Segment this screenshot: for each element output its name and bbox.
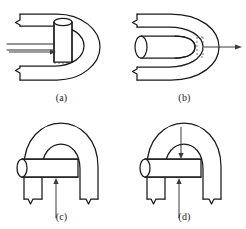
panel-c: (c) <box>0 115 123 229</box>
figure-root: (a) (b) <box>0 0 246 229</box>
cylinder-top-ellipse <box>54 18 72 25</box>
parabolic-channel-inner <box>20 26 84 66</box>
direction-arrow-right-head <box>235 44 242 49</box>
break-mark-lower <box>133 67 138 80</box>
break-mark-left-leg <box>24 199 42 204</box>
panel-a-label: (a) <box>0 93 123 103</box>
direction-arrow-down-head <box>178 153 183 159</box>
break-mark-right-leg <box>80 199 98 204</box>
break-mark-upper <box>16 14 21 26</box>
vertical-cylinder <box>54 22 72 62</box>
break-mark-lower <box>16 66 21 80</box>
panel-b: (b) <box>123 0 246 114</box>
horizontal-cylinder <box>141 36 195 58</box>
panel-d: (d) <box>123 115 246 229</box>
dashed-gap-marker <box>197 37 203 57</box>
panel-c-label: (c) <box>0 212 123 222</box>
break-mark-left-leg <box>147 199 165 204</box>
cylinder-left-ellipse <box>140 159 150 177</box>
panel-b-label: (b) <box>123 93 246 103</box>
horizontal-cylinder <box>145 159 201 177</box>
horizontal-cylinder <box>22 159 78 177</box>
cylinder-left-ellipse <box>17 159 27 177</box>
break-mark-right-leg <box>203 199 221 204</box>
direction-arrow-up-head <box>176 178 181 184</box>
direction-arrow-up-head <box>53 178 58 184</box>
panel-a: (a) <box>0 0 123 114</box>
break-mark-upper <box>133 14 138 27</box>
panel-d-label: (d) <box>123 212 246 222</box>
cylinder-left-ellipse <box>135 36 147 58</box>
